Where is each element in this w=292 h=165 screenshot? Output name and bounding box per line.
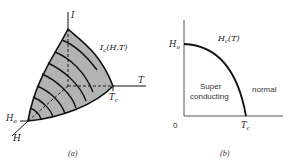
region-super-line1: Super: [200, 82, 222, 91]
curve-label: Hc(T): [217, 34, 240, 44]
caption-a: (a): [68, 149, 78, 158]
surface-label: Ic(H,T): [99, 43, 127, 53]
region-super-line2: conducting: [190, 92, 229, 101]
ho-label-a: Ho: [5, 113, 17, 124]
figure-a-3d-critical-surface: I T H Ic(H,T) Ho Tc (a): [5, 10, 146, 158]
axis-h-label: H: [12, 133, 21, 143]
axis-i-label: I: [70, 10, 75, 20]
region-normal: normal: [252, 85, 277, 94]
caption-b: (b): [220, 149, 230, 158]
figure-canvas: I T H Ic(H,T) Ho Tc (a) Ho Tc 0 Hc(T) Su…: [0, 0, 292, 165]
tc-label-b: Tc: [241, 120, 250, 131]
axis-t-label: T: [138, 75, 145, 85]
tc-label-a: Tc: [109, 92, 118, 103]
ho-label-b: Ho: [168, 39, 180, 50]
origin-label: 0: [173, 121, 178, 130]
figure-b-phase-diagram: Ho Tc 0 Hc(T) Super conducting normal (b…: [168, 20, 283, 158]
critical-field-curve: [184, 44, 246, 116]
